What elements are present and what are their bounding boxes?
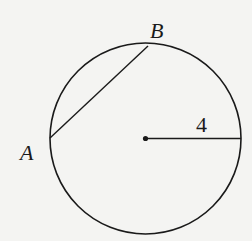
label-radius-length: 4 <box>196 112 207 137</box>
label-point-a: A <box>18 140 34 165</box>
chord-ab <box>50 46 148 138</box>
center-point <box>143 136 148 141</box>
circle-diagram: B A 4 <box>0 0 252 241</box>
label-point-b: B <box>150 18 163 43</box>
